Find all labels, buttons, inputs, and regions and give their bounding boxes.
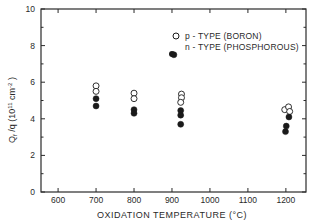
open-circle-marker [93, 88, 99, 94]
filled-circle-marker [178, 121, 184, 127]
filled-circle-marker [282, 129, 288, 135]
y-tick-label: 0 [30, 187, 35, 197]
filled-circle-marker [178, 112, 184, 118]
filled-circle-marker [131, 110, 137, 116]
x-tick-label: 1100 [239, 195, 258, 205]
svg-text:Qf /q (1011 cm-2 ): Qf /q (1011 cm-2 ) [7, 77, 18, 143]
legend-open-circle-icon [173, 33, 179, 39]
y-tick-label: 6 [30, 77, 35, 87]
y-axis-label: Qf /q (1011 cm-2 ) [7, 77, 18, 143]
open-circle-marker [131, 96, 137, 102]
legend-filled-circle-icon [169, 51, 175, 57]
x-tick-label: 600 [51, 195, 65, 205]
y-tick-label: 4 [30, 114, 35, 124]
open-circle-marker [287, 108, 293, 114]
filled-circle-marker [93, 103, 99, 109]
x-tick-label: 700 [89, 195, 103, 205]
filled-circle-marker [286, 114, 292, 120]
legend-label-p-type: p - TYPE (BORON) [185, 31, 262, 41]
chart-canvas: 600700800900100011001200 0246810 p - TYP… [0, 0, 310, 223]
y-axis-ticks: 0246810 [26, 4, 306, 197]
legend-label-n-type: n - TYPE (PHOSPHOROUS) [185, 42, 299, 52]
x-tick-label: 1200 [276, 195, 295, 205]
x-tick-label: 900 [165, 195, 179, 205]
y-tick-label: 8 [30, 41, 35, 51]
legend: p - TYPE (BORON) n - TYPE (PHOSPHOROUS) [169, 31, 299, 57]
y-tick-label: 10 [26, 4, 36, 14]
scatter-chart: 600700800900100011001200 0246810 p - TYP… [0, 0, 310, 223]
x-tick-label: 800 [127, 195, 141, 205]
open-circle-marker [178, 99, 184, 105]
x-axis-label: OXIDATION TEMPERATURE (°C) [97, 210, 247, 220]
filled-circle-marker [93, 96, 99, 102]
x-tick-label: 1000 [200, 195, 219, 205]
filled-circle-marker [283, 123, 289, 129]
data-points [93, 52, 293, 135]
y-tick-label: 2 [30, 150, 35, 160]
